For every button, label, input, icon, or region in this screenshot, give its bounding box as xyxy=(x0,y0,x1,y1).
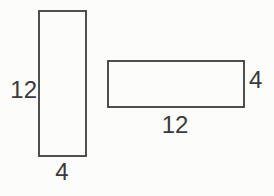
horizontal-rectangle xyxy=(108,61,244,107)
vertical-rectangle xyxy=(39,11,86,156)
vertical-rectangle-height-label: 12 xyxy=(10,76,37,103)
diagram-svg: 12 4 4 12 xyxy=(0,0,274,196)
horizontal-rectangle-height-label: 4 xyxy=(249,66,262,93)
vertical-rectangle-width-label: 4 xyxy=(55,158,68,185)
rectangles-diagram: 12 4 4 12 xyxy=(0,0,274,196)
horizontal-rectangle-width-label: 12 xyxy=(162,111,189,138)
